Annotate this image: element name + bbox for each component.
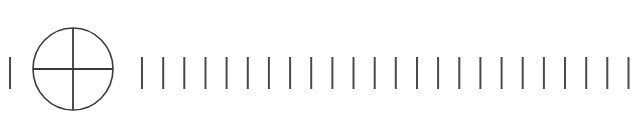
drawing-canvas (0, 0, 638, 136)
canvas-background (0, 0, 638, 136)
ruler-crosshair-figure (0, 0, 638, 136)
